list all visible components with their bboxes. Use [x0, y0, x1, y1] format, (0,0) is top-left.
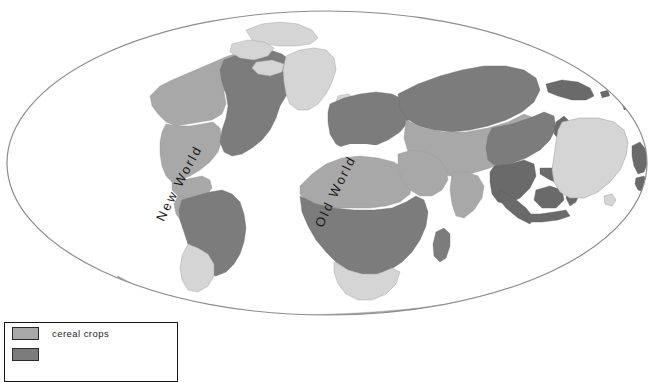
legend-item-second	[5, 344, 177, 365]
legend-swatch-second	[12, 348, 39, 361]
legend-swatch-cereal-crops	[12, 327, 39, 340]
region-pacific-islands-3	[636, 116, 644, 124]
legend-item-cereal-crops: cereal crops	[5, 323, 177, 344]
map-legend: cereal crops	[4, 322, 178, 382]
legend-label-cereal-crops: cereal crops	[52, 328, 109, 339]
